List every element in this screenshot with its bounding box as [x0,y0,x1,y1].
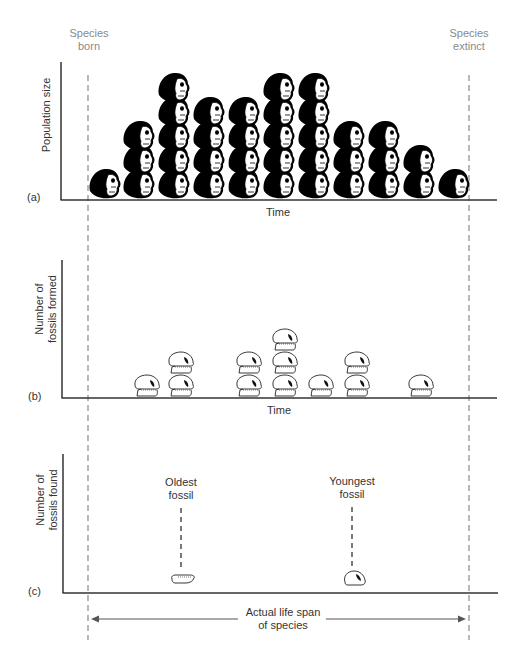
jaw-fossil-icon [172,575,195,583]
monkey-head-icon [439,169,470,198]
panel-b-ylabel-line1: Number of [33,254,46,364]
youngest-fossil [344,507,365,585]
species-born-line1: Species [66,27,112,40]
oldest-fossil-line2: fossil [158,489,204,502]
panel-c-ylabel-line1: Number of [34,445,47,555]
skull-icon [135,375,160,396]
oldest-fossil-label: Oldest fossil [158,476,204,502]
species-extinct-line2: extinct [446,40,492,53]
panel-b-xlabel: Time [267,404,291,417]
skull-icon [169,375,194,396]
skull-icon [237,375,262,396]
monkey-head-icon [90,169,121,198]
skull-icon [237,352,262,373]
skull-cap-fossil-icon [344,571,365,585]
panel-b-ylabel-line2: fossils formed [46,254,59,364]
skull-icon [309,375,334,396]
youngest-fossil-label: Youngest fossil [324,475,380,501]
youngest-fossil-line1: Youngest [324,475,380,488]
panel-a-ylabel: Population size [40,60,53,170]
arrow-right-icon [458,616,466,623]
skull-icon [345,352,370,373]
species-born-line2: born [66,40,112,53]
panel-c-ylabel: Number of fossils found [34,445,60,555]
skull-icon [345,375,370,396]
panel-c-ylabel-line2: fossils found [47,445,60,555]
fossil-record-diagram [0,0,515,654]
skull-icon [409,375,434,396]
monkey-head-icon [264,73,295,102]
population-monkey-heads [90,73,470,198]
monkey-head-icon [369,121,400,150]
monkey-head-icon [404,145,435,174]
fossils-formed-skulls [135,329,434,396]
youngest-fossil-line2: fossil [324,488,380,501]
panel-b-ylabel: Number of fossils formed [33,254,59,364]
lifespan-label: Actual life span of species [238,606,328,632]
panel-b-tag: (b) [28,390,41,402]
skull-icon [273,375,298,396]
lifespan-line1: Actual life span [238,606,328,619]
skull-icon [273,329,298,350]
monkey-head-icon [334,121,365,150]
oldest-fossil-line1: Oldest [158,476,204,489]
lifespan-line2: of species [238,619,328,632]
panel-c-axes [63,454,499,593]
oldest-fossil [172,508,195,583]
species-born-label: Species born [66,27,112,53]
monkey-head-icon [124,121,155,150]
monkey-head-icon [194,97,225,126]
monkey-head-icon [299,73,330,102]
monkey-head-icon [229,97,260,126]
species-extinct-line1: Species [446,27,492,40]
species-extinct-label: Species extinct [446,27,492,53]
skull-icon [273,352,298,373]
skull-icon [169,352,194,373]
panel-c-tag: (c) [28,585,41,597]
panel-a-tag: (a) [27,191,40,203]
arrow-left-icon [91,616,99,623]
panel-a-xlabel: Time [266,206,290,219]
monkey-head-icon [159,73,190,102]
